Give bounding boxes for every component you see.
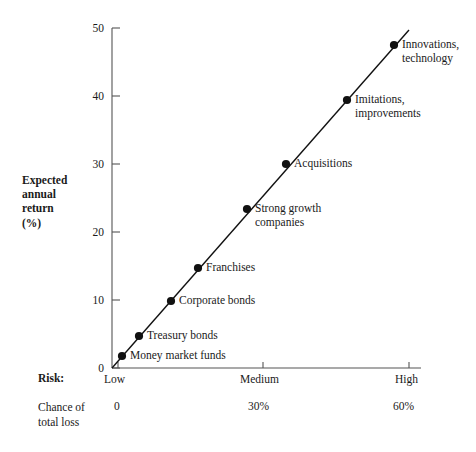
data-point-markers — [118, 41, 398, 360]
point-label-innovations-technology: Innovations, technology — [402, 38, 459, 65]
point-label-treasury-bonds: Treasury bonds — [147, 329, 218, 343]
marker-corporate-bonds — [167, 297, 175, 305]
marker-treasury-bonds — [135, 332, 143, 340]
marker-franchises — [194, 264, 202, 272]
y-tick-label-0: 0 — [78, 362, 104, 374]
y-axis-title-line-2: annual — [22, 187, 108, 201]
point-label-acquisitions: Acquisitions — [294, 157, 352, 171]
marker-money-market-funds — [118, 352, 126, 360]
x-axis-title-risk: Risk: — [38, 372, 64, 385]
x-tick-label-medium: Medium — [240, 373, 279, 386]
point-label-strong-growth-line-1: Strong growth — [255, 202, 321, 216]
point-label-strong-growth-line-2: companies — [255, 216, 321, 230]
y-axis-ticks — [112, 28, 120, 368]
y-axis-title-line-4: (%) — [22, 216, 108, 230]
secondary-axis-title-line-1: Chance of — [38, 400, 85, 415]
x-tick-label-high: High — [395, 373, 418, 386]
point-label-imitations-improvements: Imitations, improvements — [355, 93, 421, 120]
x-axis-ticks — [118, 362, 409, 368]
y-axis-title-line-1: Expected — [22, 173, 108, 187]
marker-innovations-technology — [390, 41, 398, 49]
point-label-franchises: Franchises — [206, 261, 255, 275]
risk-return-chart: 50 40 30 20 10 0 Expected annual return … — [0, 0, 476, 452]
secondary-axis-title: Chance of total loss — [38, 400, 85, 429]
secondary-tick-label-60: 60% — [393, 400, 414, 413]
point-label-strong-growth-companies: Strong growth companies — [255, 202, 321, 229]
trend-line — [112, 30, 409, 368]
point-label-imitations-line-1: Imitations, — [355, 93, 421, 107]
point-label-money-market-funds: Money market funds — [130, 349, 226, 363]
x-tick-label-low: Low — [104, 373, 125, 386]
point-label-innovations-line-1: Innovations, — [402, 38, 459, 52]
point-label-corporate-bonds: Corporate bonds — [179, 294, 255, 308]
y-axis-title: Expected annual return (%) — [22, 173, 108, 230]
marker-imitations-improvements — [343, 96, 351, 104]
y-tick-label-30: 30 — [78, 158, 104, 170]
y-tick-label-10: 10 — [78, 294, 104, 306]
secondary-axis-title-line-2: total loss — [38, 415, 85, 430]
point-label-innovations-line-2: technology — [402, 52, 459, 66]
secondary-tick-label-30: 30% — [248, 400, 269, 413]
y-tick-label-40: 40 — [78, 90, 104, 102]
secondary-tick-label-0: 0 — [114, 400, 120, 413]
y-tick-label-50: 50 — [78, 22, 104, 34]
marker-strong-growth-companies — [243, 205, 251, 213]
marker-acquisitions — [282, 160, 290, 168]
point-label-imitations-line-2: improvements — [355, 107, 421, 121]
y-axis-title-line-3: return — [22, 201, 108, 215]
